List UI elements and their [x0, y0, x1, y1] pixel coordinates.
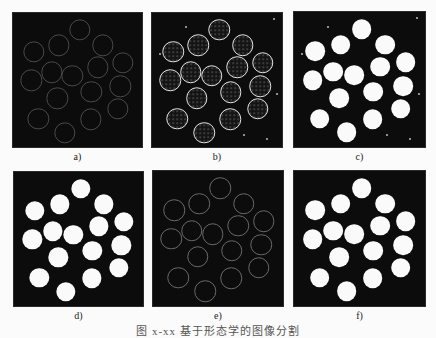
cell-circle	[180, 61, 202, 83]
cell-circle	[247, 98, 269, 120]
cell-circle	[114, 212, 133, 231]
cell-circle	[195, 281, 217, 303]
noise-speck	[409, 138, 411, 140]
cell-circle	[188, 35, 210, 57]
cell-circle	[82, 269, 101, 288]
cell-circle	[189, 193, 211, 215]
cell-circle	[163, 199, 185, 221]
cell-circle	[323, 62, 343, 82]
cell-circle	[112, 52, 133, 73]
cell-circle	[396, 52, 416, 72]
cell-circle	[252, 52, 274, 74]
cell-circle	[363, 109, 383, 129]
cell-circle	[323, 221, 343, 241]
panel-b-label: b)	[213, 151, 221, 162]
cell-circle	[94, 195, 113, 214]
panel-e-image	[153, 171, 283, 306]
panel-f-label: f)	[356, 310, 363, 321]
cell-circle	[56, 282, 75, 301]
cell-circle	[391, 99, 411, 119]
noise-speck	[273, 18, 275, 20]
cell-circle	[352, 178, 372, 198]
cell-circle	[331, 194, 351, 214]
noise-speck	[386, 134, 388, 136]
cell-circle	[181, 220, 203, 242]
noise-speck	[243, 134, 245, 136]
cell-circle	[337, 123, 357, 143]
cell-circle	[391, 258, 411, 278]
cell-circle	[305, 200, 325, 220]
cell-circle	[201, 65, 223, 87]
cell-circle	[253, 210, 275, 232]
cell-circle	[331, 35, 351, 55]
noise-speck	[327, 26, 329, 28]
cell-circle	[87, 57, 108, 78]
cell-circle	[329, 88, 349, 108]
cell-circle	[83, 241, 102, 260]
noise-speck	[276, 93, 278, 95]
cell-circle	[21, 70, 42, 91]
cell-circle	[228, 215, 250, 237]
noise-speck	[159, 53, 161, 55]
cell-circle	[329, 247, 349, 267]
cell-circle	[364, 82, 384, 102]
cell-circle	[110, 76, 131, 97]
cell-circle	[54, 122, 75, 143]
panel-d-image	[14, 172, 143, 306]
cell-circle	[161, 228, 183, 250]
cell-circle	[249, 76, 271, 98]
cell-circle	[370, 216, 390, 236]
cell-circle	[160, 70, 182, 92]
cell-circle	[81, 81, 102, 102]
panel-f-image	[294, 171, 425, 306]
cell-circle	[168, 267, 190, 289]
cell-circle	[250, 234, 272, 256]
cell-circle	[303, 229, 323, 249]
cell-circle	[28, 108, 49, 129]
cell-circle	[194, 122, 216, 144]
cell-circle	[248, 257, 270, 279]
panel-c-image	[294, 12, 425, 147]
noise-speck	[416, 17, 418, 19]
cell-circle	[41, 62, 62, 83]
cell-circle	[23, 230, 42, 249]
panel-c-label: c)	[356, 151, 364, 162]
cell-circle	[337, 282, 357, 302]
noise-speck	[266, 138, 268, 140]
cell-circle	[43, 222, 62, 241]
cell-circle	[109, 258, 128, 277]
cell-circle	[62, 65, 83, 86]
cell-circle	[233, 193, 255, 215]
cell-circle	[107, 98, 128, 119]
cell-circle	[48, 35, 69, 56]
cell-circle	[393, 235, 413, 255]
cell-circle	[219, 109, 241, 131]
cell-circle	[396, 211, 416, 231]
cell-circle	[186, 87, 208, 109]
cell-circle	[220, 267, 242, 289]
figure-caption: 图 x-xx 基于形态学的图像分割	[136, 322, 300, 338]
panel-a-image	[13, 13, 142, 147]
panel-e-label: e)	[214, 310, 222, 321]
cell-circle	[221, 240, 243, 262]
cell-circle	[112, 236, 131, 255]
cell-circle	[162, 41, 184, 63]
cell-circle	[376, 194, 396, 214]
cell-circle	[352, 19, 372, 39]
cell-circle	[220, 81, 242, 103]
cell-circle	[23, 41, 44, 62]
cell-circle	[202, 223, 224, 245]
cell-circle	[167, 108, 189, 130]
cell-circle	[80, 109, 101, 130]
cell-circle	[232, 35, 254, 57]
cell-circle	[89, 217, 108, 236]
cell-circle	[64, 225, 83, 244]
panel-d-label: d)	[74, 310, 82, 321]
cell-circle	[210, 177, 232, 199]
cell-circle	[227, 57, 249, 79]
cell-circle	[393, 76, 413, 96]
cell-circle	[364, 241, 384, 261]
noise-speck	[418, 93, 420, 95]
cell-circle	[209, 19, 231, 41]
cell-circle	[25, 201, 44, 220]
